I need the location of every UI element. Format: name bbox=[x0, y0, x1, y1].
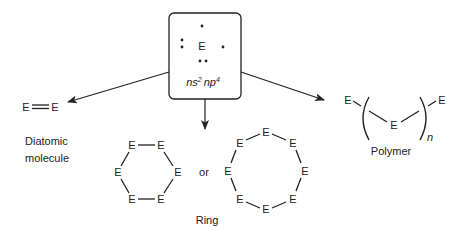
svg-text:E: E bbox=[174, 166, 181, 178]
svg-text:E: E bbox=[157, 139, 164, 151]
left-bracket bbox=[363, 97, 369, 140]
svg-text:E: E bbox=[236, 137, 243, 149]
right-bracket bbox=[420, 97, 426, 140]
svg-text:E: E bbox=[438, 94, 445, 106]
diatomic-label-line1: Diatomic bbox=[25, 135, 68, 147]
repeat-subscript: n bbox=[427, 131, 433, 143]
diatomic-molecule: E E Diatomic molecule bbox=[22, 101, 69, 164]
ring-label: Ring bbox=[196, 214, 219, 226]
polymer-chain: E E E n bbox=[344, 94, 445, 143]
svg-text:E: E bbox=[128, 139, 135, 151]
hexagon-ring: E E E E E E bbox=[114, 139, 181, 205]
svg-text:E: E bbox=[262, 126, 269, 138]
polymer-label: Polymer bbox=[371, 145, 412, 157]
svg-text:E: E bbox=[262, 203, 269, 215]
svg-text:E: E bbox=[301, 165, 308, 177]
svg-text:E: E bbox=[157, 193, 164, 205]
arrow-to-diatomic bbox=[68, 72, 169, 102]
lone-electron-dot bbox=[201, 25, 204, 28]
svg-text:E: E bbox=[390, 119, 397, 131]
electron-configuration-box: E ns2np4 bbox=[169, 13, 241, 99]
allotrope-diagram: E ns2np4 E E Diatomic molecule E E E E E… bbox=[0, 0, 467, 237]
svg-text:E: E bbox=[114, 166, 121, 178]
electron-configuration: ns2np4 bbox=[186, 76, 220, 88]
svg-text:E: E bbox=[289, 137, 296, 149]
svg-text:E: E bbox=[236, 193, 243, 205]
svg-text:E: E bbox=[289, 193, 296, 205]
arrow-to-polymer bbox=[241, 72, 324, 100]
svg-text:E: E bbox=[22, 101, 29, 113]
svg-text:E: E bbox=[51, 101, 58, 113]
or-label: or bbox=[199, 166, 209, 178]
element-symbol: E bbox=[198, 40, 205, 52]
octagon-ring: E E E E E E E E bbox=[224, 126, 308, 215]
diatomic-label-line2: molecule bbox=[25, 152, 69, 164]
svg-text:E: E bbox=[344, 94, 351, 106]
svg-text:E: E bbox=[224, 165, 231, 177]
svg-text:E: E bbox=[128, 193, 135, 205]
